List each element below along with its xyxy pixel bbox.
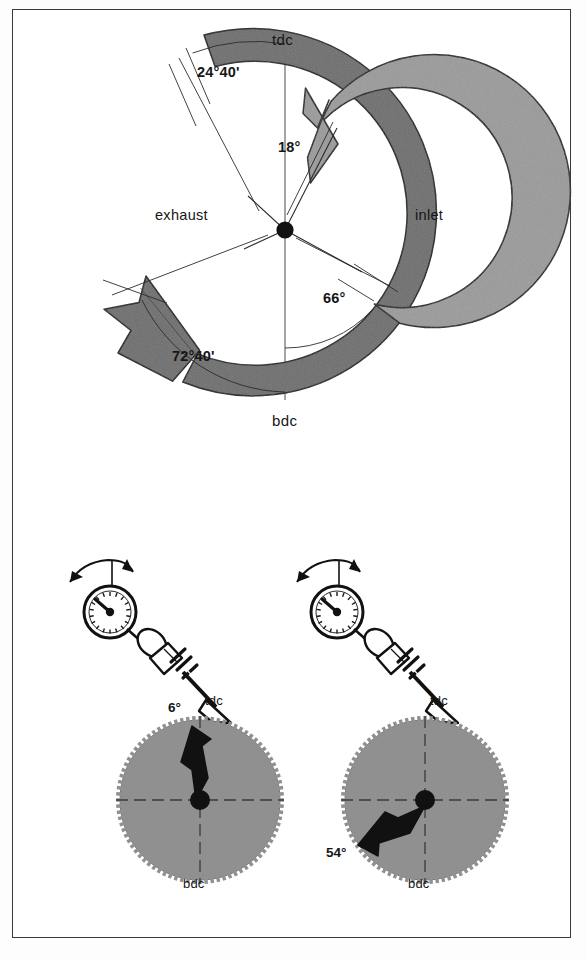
timing-label-bdc: bdc: [272, 412, 297, 429]
angle-label-exhaust-close: 18°: [278, 139, 301, 155]
flywheel-right-tdc-label: tdc: [430, 693, 448, 708]
angle-label-inlet-close: 72°40': [172, 348, 215, 364]
flywheel-left-tdc-label: tdc: [205, 693, 223, 708]
angle-label-exhaust-open: 66°: [323, 290, 346, 306]
flywheel-right-angle-label: 54°: [326, 845, 346, 860]
timing-label-tdc: tdc: [272, 31, 293, 48]
flywheel-right-bdc-label: bdc: [408, 876, 430, 891]
timing-label-inlet: inlet: [415, 207, 443, 223]
flywheel-left-bdc-label: bdc: [183, 876, 205, 891]
flywheel-left-angle-label: 6°: [168, 700, 181, 715]
timing-label-exhaust: exhaust: [155, 207, 208, 223]
page-canvas: tdc bdc exhaust inlet 24°40' 18° 66° 72°…: [0, 0, 587, 960]
angle-label-inlet-open: 24°40': [197, 64, 240, 80]
